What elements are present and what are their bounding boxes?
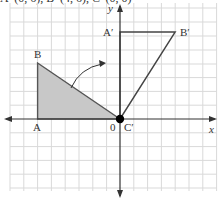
x-axis-arrow-left (4, 116, 12, 122)
label-B-prime: B′ (180, 26, 190, 38)
x-axis-arrow-right (209, 116, 217, 122)
coordinate-plane: y x B A 0 C′ A′ B′ (0, 0, 221, 200)
origin-point (116, 115, 124, 123)
y-axis-label: y (107, 2, 113, 14)
x-axis-label: x (208, 123, 214, 135)
rotation-arrowhead (99, 60, 106, 67)
rotation-arrow (71, 64, 102, 88)
label-B: B (34, 48, 41, 60)
y-axis-arrow-down (117, 190, 123, 198)
label-C-prime: C′ (124, 121, 134, 133)
label-A-prime: A′ (103, 26, 113, 38)
label-origin: 0 (110, 121, 116, 133)
label-A: A (33, 121, 41, 133)
